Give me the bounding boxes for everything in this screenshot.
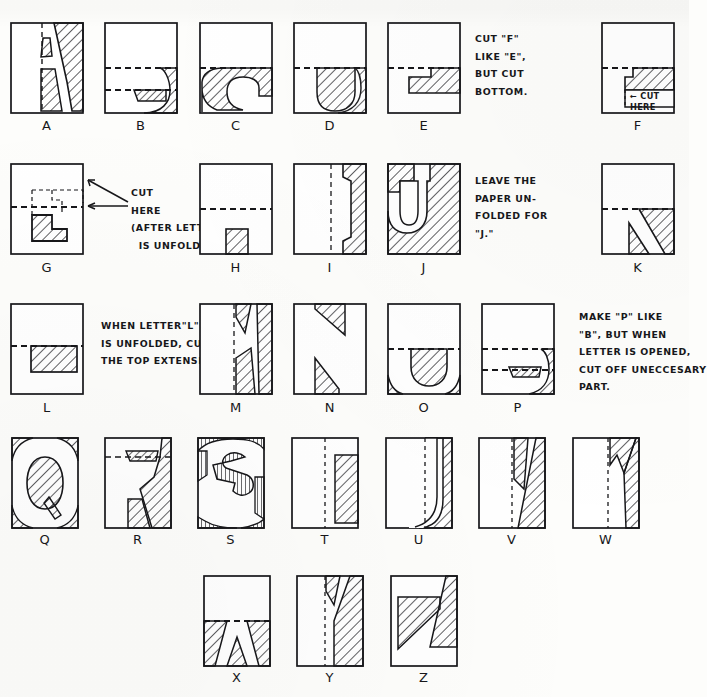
note-f-inline: ← CUT HERE	[630, 91, 659, 113]
caption-P: P	[481, 400, 555, 415]
caption-H: H	[199, 260, 273, 275]
letter-panel-J	[387, 163, 461, 255]
caption-B: B	[104, 118, 178, 133]
caption-R: R	[104, 532, 172, 547]
note-p: MAKE "P" LIKE "B", BUT WHEN LETTER IS OP…	[579, 308, 707, 396]
letter-panel-L	[10, 303, 84, 395]
caption-Z: Z	[390, 670, 458, 685]
letter-panel-Z	[390, 575, 458, 667]
letter-panel-B	[104, 22, 178, 114]
note-f: CUT "F" LIKE "E", BUT CUT BOTTOM.	[475, 30, 528, 100]
letter-panel-S	[197, 437, 265, 529]
caption-D: D	[293, 118, 367, 133]
letter-panel-G	[10, 163, 84, 255]
letter-panel-I	[293, 163, 367, 255]
callout-arrows-g	[80, 172, 132, 214]
caption-Q: Q	[11, 532, 79, 547]
caption-Y: Y	[296, 670, 364, 685]
letter-panel-D	[293, 22, 367, 114]
caption-I: I	[293, 260, 367, 275]
caption-S: S	[197, 532, 265, 547]
caption-G: G	[10, 260, 84, 275]
caption-K: K	[601, 260, 675, 275]
letter-panel-X	[203, 575, 271, 667]
arrow-left-icon: ←	[630, 91, 637, 101]
caption-X: X	[203, 670, 271, 685]
letter-panel-V	[478, 437, 546, 529]
caption-V: V	[478, 532, 546, 547]
letter-panel-U	[385, 437, 453, 529]
caption-N: N	[293, 400, 367, 415]
letter-panel-W	[572, 437, 640, 529]
letter-panel-O	[387, 303, 461, 395]
letter-panel-M	[199, 303, 273, 395]
caption-F: F	[601, 118, 675, 133]
note-k: LEAVE THE PAPER UN- FOLDED FOR "J."	[475, 172, 548, 242]
letter-panel-Q	[11, 437, 79, 529]
letter-panel-A	[10, 22, 84, 114]
caption-A: A	[10, 118, 84, 133]
caption-J: J	[387, 260, 461, 275]
letter-panel-T	[291, 437, 359, 529]
letter-panel-C	[199, 22, 273, 114]
letter-panel-Y	[296, 575, 364, 667]
caption-E: E	[387, 118, 461, 133]
letter-panel-H	[199, 163, 273, 255]
letter-panel-N	[293, 303, 367, 395]
caption-T: T	[291, 532, 359, 547]
caption-M: M	[199, 400, 273, 415]
letter-panel-P	[481, 303, 555, 395]
letter-panel-E	[387, 22, 461, 114]
letter-panel-R	[104, 437, 172, 529]
caption-L: L	[10, 400, 84, 415]
caption-U: U	[385, 532, 453, 547]
letter-panel-K	[601, 163, 675, 255]
caption-C: C	[199, 118, 273, 133]
caption-W: W	[572, 532, 640, 547]
caption-O: O	[387, 400, 461, 415]
